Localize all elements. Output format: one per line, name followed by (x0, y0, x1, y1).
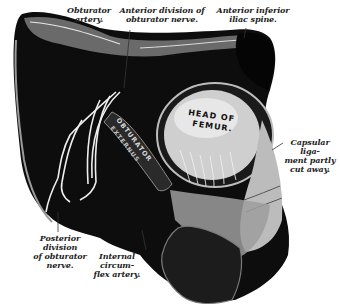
anatomical-figure: HEAD OF FEMUR. OBTURATOR EXTERNUS Obtura… (0, 0, 340, 308)
label-capsular-ligament: Capsular liga- ment partly cut away. (280, 138, 340, 174)
label-anterior-division: Anterior division of obturator nerve. (112, 6, 212, 24)
label-obturator-artery: Obturator artery. (60, 6, 118, 24)
label-anterior-inferior-iliac-spine: Anterior inferior iliac spine. (208, 6, 298, 24)
label-internal-circumflex: Internal circum- flex artery. (84, 252, 150, 279)
